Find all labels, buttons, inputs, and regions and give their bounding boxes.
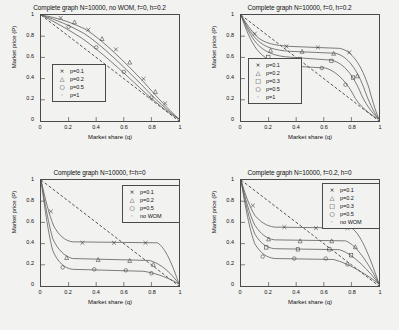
legend-label: p=1 xyxy=(265,93,275,101)
y-tick: 0.2 xyxy=(214,260,234,266)
y-tick: 0.4 xyxy=(14,239,34,245)
x-tick: 0.2 xyxy=(58,289,78,295)
y-tick: 1 xyxy=(14,11,34,17)
marker-x-icon: × xyxy=(251,61,265,69)
y-tick: 0.4 xyxy=(214,239,234,245)
legend-item: × p=0.1 xyxy=(251,61,298,69)
marker-triangle-icon: △ xyxy=(325,194,339,202)
legend-label: p=0.1 xyxy=(265,61,280,69)
x-tick: 0.2 xyxy=(258,124,278,130)
figure-canvas: Complete graph N=10000, no WOM, f=0, h=0… xyxy=(0,0,399,330)
legend-label: p=0.1 xyxy=(139,188,154,196)
x-axis-label: Market share (q) xyxy=(240,299,380,305)
x-tick: 0.4 xyxy=(286,124,306,130)
marker-square-icon: □ xyxy=(325,202,339,210)
legend-label: p=0.3 xyxy=(339,202,354,210)
legend-label: p=0.2 xyxy=(339,194,354,202)
y-tick: 0.8 xyxy=(214,32,234,38)
legend-label: p=0.5 xyxy=(69,83,84,91)
y-tick: 0.6 xyxy=(214,53,234,59)
legend-label: p=0.1 xyxy=(69,67,84,75)
legend-item: ○ p=0.5 xyxy=(125,204,176,212)
y-tick: 1 xyxy=(214,11,234,17)
x-tick: 0.6 xyxy=(314,289,334,295)
y-tick: 0.2 xyxy=(214,95,234,101)
marker-x-icon: × xyxy=(325,186,339,194)
x-tick: 0.6 xyxy=(314,124,334,130)
legend-item: × p=0.1 xyxy=(325,186,376,194)
chart-panel-3: Complete graph N=10000, f=h=0 Market pri… xyxy=(0,165,199,330)
marker-triangle-icon: △ xyxy=(55,75,69,83)
marker-dot-icon: · xyxy=(125,212,139,220)
chart-panel-4: Complete graph N=10000, f=0.2, h=0 Marke… xyxy=(200,165,399,330)
x-tick: 0 xyxy=(230,289,250,295)
x-axis-label: Market share (q) xyxy=(40,134,180,140)
x-tick: 0 xyxy=(30,124,50,130)
x-tick: 1 xyxy=(370,124,390,130)
marker-circle-icon: ○ xyxy=(125,204,139,212)
legend-label: p=1 xyxy=(69,91,79,99)
legend-item: ○ p=0.5 xyxy=(55,83,102,91)
y-tick: 0.2 xyxy=(14,260,34,266)
legend-item: △ p=0.2 xyxy=(55,75,102,83)
legend-label: p=0.2 xyxy=(69,75,84,83)
legend-item: × p=0.1 xyxy=(55,67,102,75)
panel-title: Complete graph N=10000, f=h=0 xyxy=(0,169,199,176)
y-tick: 0.4 xyxy=(214,74,234,80)
panel-title: Complete graph N=10000, f=0.2, h=0 xyxy=(200,169,399,176)
panel-title: Complete graph N=10000, f=0, h=0.2 xyxy=(200,4,399,11)
y-tick: 0.6 xyxy=(14,218,34,224)
y-tick: 0.4 xyxy=(14,74,34,80)
markers-p02 xyxy=(267,237,358,249)
x-tick: 0.2 xyxy=(58,124,78,130)
x-tick: 0.4 xyxy=(286,289,306,295)
x-tick: 0.8 xyxy=(342,289,362,295)
y-tick: 0.8 xyxy=(214,197,234,203)
chart-panel-2: Complete graph N=10000, f=0, h=0.2 Marke… xyxy=(200,0,399,165)
x-tick: 0.6 xyxy=(114,124,134,130)
x-axis-label: Market share (q) xyxy=(240,134,380,140)
y-tick: 0.2 xyxy=(14,95,34,101)
y-tick: 0.8 xyxy=(14,197,34,203)
legend-label: p=0.3 xyxy=(265,77,280,85)
marker-triangle-icon: △ xyxy=(125,196,139,204)
marker-dot-icon: · xyxy=(251,93,265,101)
legend-item: · no WOM xyxy=(125,212,176,220)
y-tick: 0.8 xyxy=(14,32,34,38)
legend-label: p=0.2 xyxy=(265,69,280,77)
y-tick: 0 xyxy=(14,116,34,122)
x-tick: 0 xyxy=(230,124,250,130)
marker-dot-icon: · xyxy=(55,91,69,99)
marker-square-icon: □ xyxy=(251,77,265,85)
marker-triangle-icon: △ xyxy=(251,69,265,77)
marker-circle-icon: ○ xyxy=(325,210,339,218)
chart-panel-1: Complete graph N=10000, no WOM, f=0, h=0… xyxy=(0,0,199,165)
y-tick: 0 xyxy=(214,281,234,287)
legend: × p=0.1 △ p=0.2 □ p=0.3 ○ p=0.5 · no WOM xyxy=(322,183,380,229)
legend-item: △ p=0.2 xyxy=(125,196,176,204)
y-tick: 1 xyxy=(14,176,34,182)
legend-item: △ p=0.2 xyxy=(251,69,298,77)
marker-dot-icon: · xyxy=(325,218,339,226)
x-tick: 0.4 xyxy=(86,289,106,295)
legend-item: × p=0.1 xyxy=(125,188,176,196)
marker-x-icon: × xyxy=(55,67,69,75)
legend-item: □ p=0.3 xyxy=(325,202,376,210)
legend-item: □ p=0.3 xyxy=(251,77,298,85)
marker-circle-icon: ○ xyxy=(251,85,265,93)
x-tick: 1 xyxy=(170,289,190,295)
legend-label: p=0.2 xyxy=(139,196,154,204)
x-tick: 1 xyxy=(370,289,390,295)
x-axis-label: Market share (q) xyxy=(40,299,180,305)
legend-label: p=0.5 xyxy=(139,204,154,212)
y-tick: 0 xyxy=(14,281,34,287)
x-tick: 0 xyxy=(30,289,50,295)
markers-p02 xyxy=(65,256,156,267)
legend-label: p=0.5 xyxy=(339,210,354,218)
x-tick: 0.2 xyxy=(258,289,278,295)
x-tick: 1 xyxy=(170,124,190,130)
panel-title: Complete graph N=10000, no WOM, f=0, h=0… xyxy=(0,4,199,11)
y-tick: 0.6 xyxy=(214,218,234,224)
legend: × p=0.1 △ p=0.2 □ p=0.3 ○ p=0.5 · p=1 xyxy=(248,58,302,104)
x-tick: 0.8 xyxy=(342,124,362,130)
